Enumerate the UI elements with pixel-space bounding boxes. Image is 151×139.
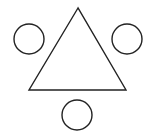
diagram-canvas [0, 0, 151, 139]
diagram-svg [0, 0, 151, 139]
circle-bottom [62, 100, 92, 130]
circle-left [14, 24, 44, 54]
triangle-shape [29, 8, 126, 90]
circle-right [112, 24, 142, 54]
